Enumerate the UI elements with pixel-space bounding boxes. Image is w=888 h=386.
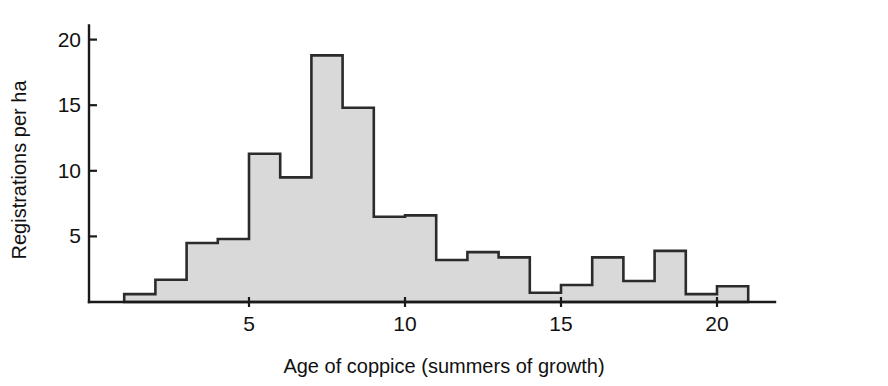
- x-axis-title: Age of coppice (summers of growth): [283, 355, 604, 377]
- x-axis-tick-labels: 5101520: [243, 312, 729, 335]
- histogram-bars: [124, 55, 748, 302]
- histogram-figure: 5101520 5101520 Age of coppice (summers …: [0, 0, 888, 386]
- x-tick-label: 15: [549, 312, 572, 335]
- y-tick-label: 5: [69, 224, 81, 247]
- x-tick-label: 5: [243, 312, 255, 335]
- y-axis-title: Registrations per ha: [8, 80, 30, 260]
- y-axis-tick-labels: 5101520: [58, 28, 81, 248]
- y-tick-label: 20: [58, 28, 81, 51]
- histogram-plot: 5101520 5101520 Age of coppice (summers …: [0, 0, 888, 386]
- y-tick-label: 15: [58, 93, 81, 116]
- x-tick-label: 10: [393, 312, 416, 335]
- x-tick-label: 20: [705, 312, 728, 335]
- y-tick-label: 10: [58, 159, 81, 182]
